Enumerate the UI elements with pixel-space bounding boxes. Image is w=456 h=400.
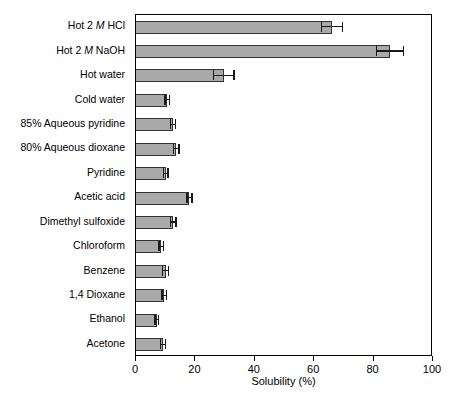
error-bar-cap-low [163,168,164,178]
error-bar-cap-low [160,339,161,349]
error-bar-cap-low [321,22,322,32]
bar-row [136,88,433,112]
error-bar-cap-high [166,290,167,300]
error-bar-cap-low [161,290,162,300]
error-bar-cap-low [162,266,163,276]
error-bar-cap-low [376,46,377,56]
category-label: Hot water [0,69,125,80]
plot-area [135,14,432,356]
error-bar-line [377,50,404,51]
x-tick-mark [135,356,136,361]
error-bar-cap-high [169,95,170,105]
bar-row [136,39,433,63]
x-tick-mark [373,356,374,361]
category-label: Ethanol [0,313,125,324]
error-bar-cap-high [163,241,164,251]
category-label: Cold water [0,94,125,105]
bars-layer [136,15,431,355]
category-label: Hot 2 M HCl [0,20,125,31]
error-bar-cap-low [173,144,174,154]
error-bar-line [213,75,234,76]
bar-row [136,308,433,332]
error-bar-cap-low [170,119,171,129]
category-label: Acetic acid [0,191,125,202]
category-label: Pyridine [0,167,125,178]
x-tick-label: 20 [174,363,214,375]
x-tick-label: 100 [412,363,452,375]
bar [136,143,176,156]
bar-row [136,113,433,137]
bar [136,167,166,180]
category-label: 1,4 Dioxane [0,289,125,300]
error-bar-cap-high [175,119,176,129]
error-bar-cap-low [164,95,165,105]
error-bar-cap-high [342,22,343,32]
category-label: Chloroform [0,240,125,251]
bar [136,94,167,107]
bar [136,69,224,82]
bar [136,338,163,351]
error-bar-line [322,26,343,27]
bar-row [136,235,433,259]
error-bar-cap-high [191,193,192,203]
bar-row [136,186,433,210]
bar-row [136,15,433,39]
bar [136,21,332,34]
bar-row [136,137,433,161]
bar-row [136,259,433,283]
bar-row [136,162,433,186]
category-label: Acetone [0,338,125,349]
x-tick-label: 40 [234,363,274,375]
category-label: Benzene [0,265,125,276]
error-bar-cap-high [178,144,179,154]
error-bar-cap-low [213,70,214,80]
error-bar-cap-low [154,315,155,325]
x-tick-label: 60 [293,363,333,375]
error-bar-cap-high [167,168,168,178]
x-tick-mark [432,356,433,361]
x-tick-label: 0 [115,363,155,375]
x-axis-title: Solubility (%) [135,375,432,387]
category-label: Hot 2 M NaOH [0,45,125,56]
bar [136,118,173,131]
category-axis-labels: Hot 2 M HClHot 2 M NaOHHot waterCold wat… [0,14,130,356]
x-tick-label: 80 [353,363,393,375]
bar [136,192,189,205]
error-bar-cap-low [186,193,187,203]
x-tick-mark [313,356,314,361]
error-bar-cap-high [158,315,159,325]
category-label: 85% Aqueous pyridine [0,118,125,129]
error-bar-cap-high [168,266,169,276]
error-bar-cap-high [233,70,234,80]
x-tick-mark [254,356,255,361]
bar [136,289,164,302]
error-bar-cap-high [175,217,176,227]
error-bar-cap-low [158,241,159,251]
bar-row [136,210,433,234]
x-tick-mark [194,356,195,361]
bar-row [136,333,433,357]
solubility-bar-chart: Hot 2 M HClHot 2 M NaOHHot waterCold wat… [0,0,456,400]
category-label: 80% Aqueous dioxane [0,142,125,153]
bar [136,216,173,229]
error-bar-cap-high [403,46,404,56]
error-bar-cap-low [170,217,171,227]
error-bar-cap-high [165,339,166,349]
bar [136,45,390,58]
bar-row [136,284,433,308]
bar-row [136,64,433,88]
category-label: Dimethyl sulfoxide [0,216,125,227]
